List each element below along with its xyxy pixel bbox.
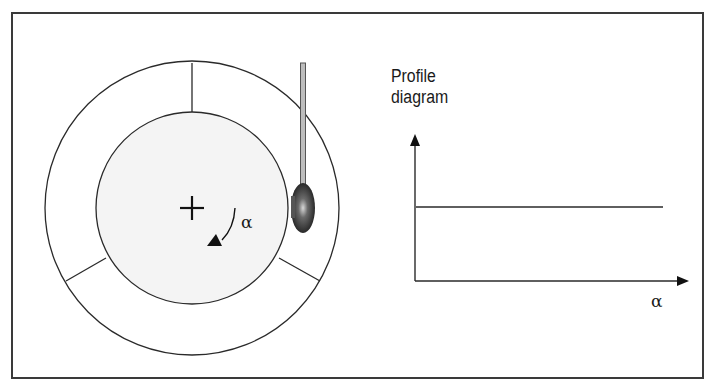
title-line-1: Profile	[391, 66, 448, 87]
rotating-part	[45, 61, 339, 355]
rotation-angle-label: α	[241, 212, 252, 232]
profile-diagram	[410, 134, 689, 286]
title-line-2: diagram	[391, 87, 448, 108]
profile-diagram-title: Profile diagram	[391, 66, 448, 108]
y-axis-arrow-icon	[410, 134, 420, 146]
x-axis-label: α	[651, 291, 662, 311]
figure-canvas	[0, 0, 712, 392]
x-axis-arrow-icon	[677, 276, 689, 286]
